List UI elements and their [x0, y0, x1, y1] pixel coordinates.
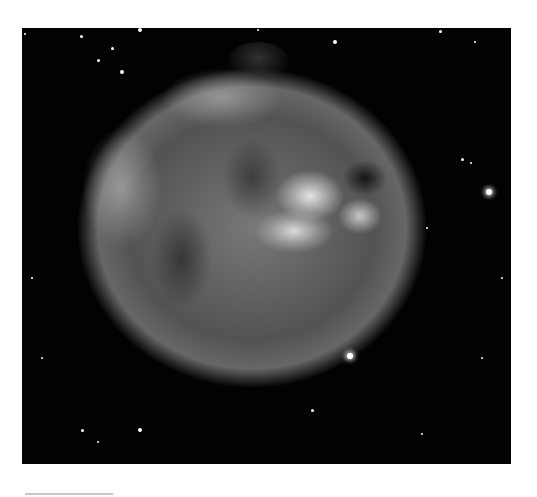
star: [41, 357, 43, 359]
star: [426, 227, 428, 229]
star: [138, 28, 142, 32]
star: [486, 189, 492, 195]
star: [24, 33, 26, 35]
star: [333, 40, 337, 44]
star: [474, 41, 476, 43]
star: [421, 433, 423, 435]
star: [347, 353, 353, 359]
star: [31, 277, 33, 279]
star: [461, 158, 464, 161]
star: [257, 29, 259, 31]
star: [501, 277, 503, 279]
star: [311, 409, 314, 412]
star: [120, 70, 124, 74]
star: [80, 35, 83, 38]
nebula-outer-cap: [227, 42, 289, 82]
star: [439, 30, 442, 33]
star: [97, 59, 100, 62]
star: [481, 357, 483, 359]
star: [470, 162, 472, 164]
scale-bar: [25, 493, 113, 495]
star: [138, 428, 142, 432]
nebula-photograph: [22, 28, 511, 464]
star: [97, 441, 99, 443]
supernova-remnant: [22, 28, 511, 464]
star: [81, 429, 84, 432]
star: [111, 47, 114, 50]
